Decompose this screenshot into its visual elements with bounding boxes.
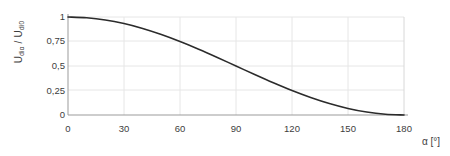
plot-area [0, 0, 450, 156]
chart-figure: Udiα / Udi0 1 0,75 0,5 0,25 0 0 30 60 90… [0, 0, 450, 156]
